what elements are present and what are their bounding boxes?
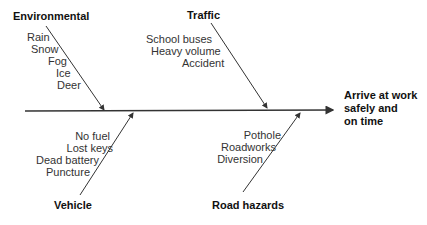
cause: Diversion — [217, 153, 263, 165]
category-traffic: Traffic — [187, 9, 220, 21]
category-road-hazards: Road hazards — [212, 199, 284, 211]
cause: Deer — [57, 79, 81, 91]
cause: School buses — [146, 33, 212, 45]
cause: Puncture — [46, 166, 90, 178]
cause: Heavy volume — [151, 45, 221, 57]
spine-arrow — [25, 110, 333, 111]
bone-environmental — [46, 26, 104, 110]
cause: Rain — [27, 31, 50, 43]
cause: No fuel — [75, 130, 110, 142]
cause: Fog — [48, 55, 67, 67]
effect-label: Arrive at work safely and on time — [344, 89, 417, 128]
category-vehicle: Vehicle — [54, 199, 92, 211]
effect-line: Arrive at work — [344, 89, 417, 102]
cause: Dead battery — [36, 154, 99, 166]
effect-line: safely and — [344, 102, 417, 115]
cause: Ice — [56, 67, 71, 79]
cause: Pothole — [244, 129, 281, 141]
effect-line: on time — [344, 115, 417, 128]
cause: Accident — [182, 57, 224, 69]
cause: Snow — [31, 43, 59, 55]
category-environmental: Environmental — [13, 10, 89, 22]
cause: Roadworks — [221, 141, 276, 153]
cause: Lost keys — [67, 142, 113, 154]
